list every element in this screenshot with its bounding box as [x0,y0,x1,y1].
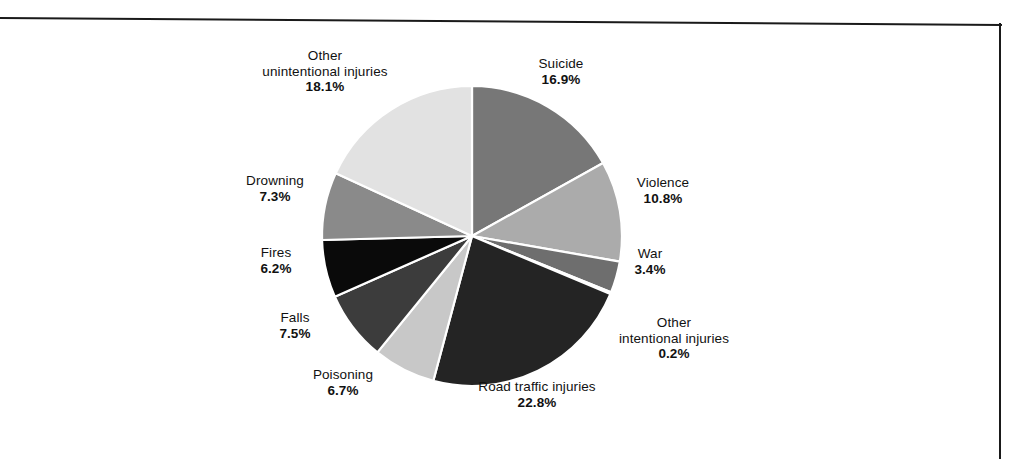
pie-label-line1: Other [594,315,754,331]
pie-label-line1: Violence [610,175,716,191]
pie-label-value: 6.7% [285,383,401,399]
pie-label-road-traffic-injuries: Road traffic injuries 22.8% [437,379,637,410]
pie-slice-group [322,86,622,386]
pie-label-violence: Violence 10.8% [610,175,716,206]
pie-label-line1: Falls [255,310,335,326]
pie-label-line1: Suicide [506,56,616,72]
pie-label-value: 6.2% [236,261,316,277]
pie-label-line2: intentional injuries [594,331,754,347]
pie-label-line1: Fires [236,245,316,261]
pie-label-value: 7.5% [255,326,335,342]
scanned-figure-page: Other unintentional injuries 18.1% Suici… [0,0,1020,459]
pie-label-line1: War [610,246,690,262]
pie-label-value: 18.1% [236,79,414,95]
pie-label-value: 22.8% [437,395,637,411]
pie-chart: Other unintentional injuries 18.1% Suici… [0,0,1020,459]
pie-label-poisoning: Poisoning 6.7% [285,367,401,398]
pie-label-value: 0.2% [594,346,754,362]
pie-label-line1: Other [236,48,414,64]
pie-label-line1: Road traffic injuries [437,379,637,395]
pie-chart-svg [320,84,624,388]
pie-label-suicide: Suicide 16.9% [506,56,616,87]
pie-label-line1: Poisoning [285,367,401,383]
pie-label-other-unintentional-injuries: Other unintentional injuries 18.1% [236,48,414,95]
pie-label-line1: Drowning [219,173,331,189]
pie-label-value: 3.4% [610,262,690,278]
pie-label-drowning: Drowning 7.3% [219,173,331,204]
pie-label-falls: Falls 7.5% [255,310,335,341]
pie-label-fires: Fires 6.2% [236,245,316,276]
pie-label-value: 16.9% [506,72,616,88]
pie-label-value: 7.3% [219,189,331,205]
pie-label-value: 10.8% [610,191,716,207]
pie-label-other-intentional-injuries: Other intentional injuries 0.2% [594,315,754,362]
pie-label-war: War 3.4% [610,246,690,277]
pie-label-line2: unintentional injuries [236,64,414,80]
